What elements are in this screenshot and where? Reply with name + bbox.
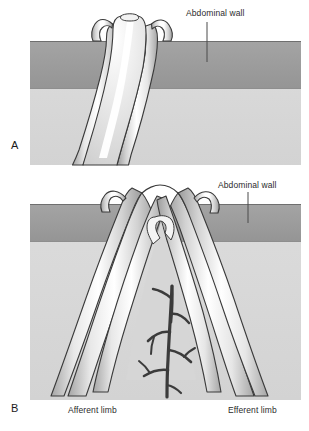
panel-b [30, 185, 301, 400]
afferent-limb-label: Afferent limb [68, 405, 117, 415]
efferent-limb-label: Efferent limb [228, 405, 277, 415]
panel-a-stoma-mouth [120, 14, 138, 21]
illustration-svg [0, 0, 309, 431]
panel-b-abdominal-wall-label: Abdominal wall [218, 180, 277, 190]
panel-a-letter: A [11, 139, 18, 151]
panel-b-letter: B [11, 402, 18, 414]
panel-a-abdominal-wall-label: Abdominal wall [186, 8, 245, 18]
panel-a [30, 14, 301, 165]
vessel-main-trunk-upper [171, 286, 172, 322]
panel-a-abdominal-wall-band [30, 41, 301, 88]
figure-container: Abdominal wall Abdominal wall Afferent l… [0, 0, 309, 431]
